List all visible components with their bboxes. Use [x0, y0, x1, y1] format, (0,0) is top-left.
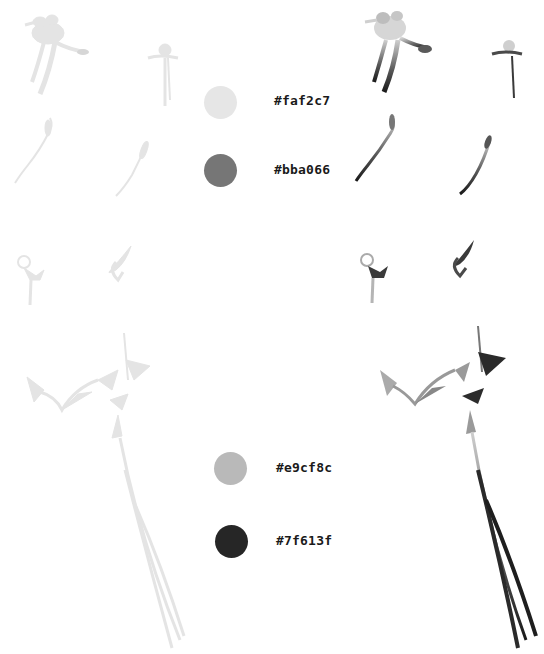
flower-hairpin-large-light-icon: [25, 15, 89, 94]
swirl-pin-light-icon: [18, 256, 44, 305]
hex-label-e9cf8c: #e9cf8c: [276, 460, 332, 476]
dark-variant-group: [356, 11, 536, 648]
hex-label-faf2c7: #faf2c7: [274, 93, 330, 109]
flower-hairpin-small-light-icon: [148, 44, 178, 106]
leaf-pin-dark-icon: [453, 240, 474, 276]
color-swatch-faf2c7: [204, 86, 237, 119]
leaf-pin-light-icon: [109, 246, 131, 280]
artwork-canvas: [0, 0, 544, 654]
ginkgo-crown-dark-icon: [380, 326, 536, 648]
color-swatch-7f613f: [215, 525, 248, 558]
feather-pin-a-light-icon: [15, 118, 52, 183]
flower-hairpin-small-dark-icon: [492, 40, 522, 104]
flower-hairpin-large-dark-icon: [365, 11, 432, 92]
light-variant-group: [15, 15, 184, 648]
color-swatch-e9cf8c: [214, 452, 247, 485]
feather-pin-b-dark-icon: [460, 134, 493, 194]
hex-label-bba066: #bba066: [274, 162, 330, 178]
color-swatch-bba066: [204, 154, 237, 187]
hex-label-7f613f: #7f613f: [276, 533, 332, 549]
swirl-pin-dark-icon: [361, 254, 388, 303]
feather-pin-a-dark-icon: [356, 114, 395, 181]
feather-pin-b-light-icon: [116, 141, 150, 196]
ginkgo-crown-light-icon: [27, 333, 184, 648]
